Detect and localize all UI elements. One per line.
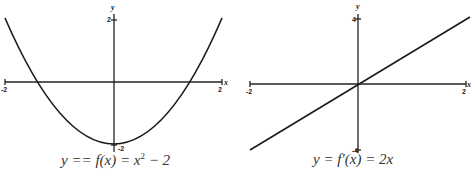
left-y-tick-label-max: 2 [107,16,111,23]
left-y-axis-label: y [110,3,115,12]
right-caption: y = f′(x) = 2x [313,151,393,168]
charts-canvas: y x -2 2 2 -2 y x -2 2 4 -4 [0,0,473,174]
right-x-tick-label-max: 2 [462,88,466,95]
left-chart: y x -2 2 2 -2 [1,3,228,152]
right-y-tick-label-max: 4 [352,16,356,23]
right-x-tick-label-min: -2 [246,88,252,95]
right-x-axis-label: x [466,80,471,89]
right-chart: y x -2 2 4 -4 [246,2,471,154]
left-caption-prefix: y == f(x) = x [61,152,141,168]
left-x-tick-label-max: 2 [218,86,222,93]
right-y-axis-label: y [355,2,360,11]
left-x-axis-label: x [223,78,228,87]
left-x-tick-label-min: -2 [1,86,7,93]
left-caption: y == f(x) = x2 − 2 [61,151,170,169]
left-caption-suffix: − 2 [145,152,170,168]
